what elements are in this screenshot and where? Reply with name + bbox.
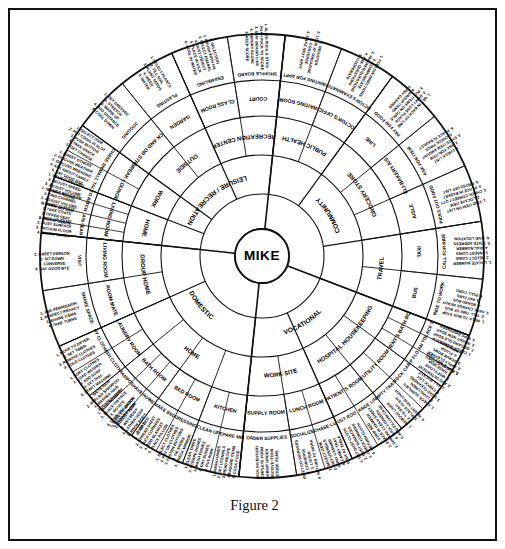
setting-label: HOME (142, 219, 152, 238)
activity-label: JOGGING (120, 121, 139, 140)
sector-divider (43, 278, 124, 291)
domain-label: LEISURE / RECREATION (186, 175, 247, 227)
task-step-group: 1. GREET CO-WORKERS2. CONVERSE3. LISTEN4… (293, 436, 323, 479)
subsetting-label: TAXI (416, 245, 422, 257)
task-step-group: 1. ALIGN PUCK & STICK2. PUSH PUCK TO SCO… (244, 24, 270, 71)
setting-label: RECREATION CENTER (211, 134, 276, 151)
setting-label: GROCERY STORE (346, 171, 378, 218)
subsetting-label: ROOM MATE (104, 285, 119, 318)
setting-label: WORK (150, 190, 164, 210)
curriculum-wheel: DOMESTICHOMEKITCHENPREPARE MEAL1. WASH H… (24, 24, 501, 479)
figure-page: DOMESTICHOMEKITCHENPREPARE MEAL1. WASH H… (0, 0, 505, 549)
setting-label: HOSPITAL HOUSEKEEPING (316, 304, 373, 364)
wheel-svg: DOMESTICHOMEKITCHENPREPARE MEAL1. WASH H… (24, 24, 501, 479)
subsetting-label: LINE (364, 135, 377, 148)
task-step-group: 1. REGISTER2. LOOK AT MAGAZINE3. CONVERS… (297, 29, 326, 76)
domain-label: VOCATIONAL (283, 307, 323, 335)
task-step-group: 1. FOLLOW DIRECTIONS2. COMMUNICATE3. ANS… (341, 45, 385, 98)
activity-label: CALL FOR RIDE (441, 233, 447, 269)
figure-caption: Figure 2 (10, 497, 499, 514)
subsetting-label: CLASS ROOM (200, 98, 235, 114)
task-step-group: 1. WASH HANDS2. GET UTENSILS3. READ RECI… (211, 442, 242, 479)
subsetting-label: BED ROOM (173, 384, 201, 403)
subsetting-label: COURT (248, 96, 268, 103)
task-step-group: 1. CHECK LIST2. ASK FOR ITEM3. STATE ITE… (415, 124, 467, 169)
task-step-group: 1. SELECT PLANTS2. TILL SOIL3. PLANT SEE… (133, 55, 173, 99)
task-step-group: 1. GET DRESSED2. STRETCH3. WARM UP4. JOG… (89, 91, 130, 132)
subsetting-label: SUPPLY ROOM (247, 409, 285, 417)
activity-label: VISIT (77, 255, 82, 267)
figure-frame: DOMESTICHOMEKITCHENPREPARE MEAL1. WASH H… (8, 8, 497, 541)
subsetting-label: AISLE (408, 203, 418, 220)
task-step-group: 1. WALK TO BUS STOP2. TELL TIME OF BUS3.… (439, 285, 492, 325)
setting-label: GROUP HOME (140, 254, 152, 295)
setting-label: HOME (183, 345, 201, 360)
task-step-group: 1. GREET PERSON2. SIT DOWN3. CONVERSE4. … (34, 251, 70, 272)
task-step: 6. GIVE LOCATION (454, 236, 489, 242)
subsetting-label: GARDEN (168, 114, 190, 131)
subsetting-label: BUS (411, 286, 419, 299)
sector-divider (401, 271, 483, 280)
task-step-group: 1. FIND ITEM ON LIST2. LOCATE ITEM3. CHE… (437, 178, 490, 215)
activity-label: SHUFFLE BOARD (237, 71, 277, 78)
subsetting-label: KITCHEN (213, 403, 237, 414)
task-step-group: 1. CHECK INVENTORY2. COMPLETE FORM3. SUB… (254, 444, 280, 479)
subsetting-label: UTILITY ROOM (361, 348, 391, 379)
subsetting-label: LUNCH ROOM (289, 398, 325, 414)
subsetting-label: BREAK LOUNGE (112, 161, 137, 201)
task-step-group: 1. LOCATE NUMBER2. SELECT COINS3. INSERT… (452, 236, 491, 267)
subsetting-label: WAITING ROOM (279, 97, 319, 112)
setting-label: OUTSIDE (175, 153, 199, 174)
subsetting-label: LIVING ROOM (102, 242, 109, 277)
domain-label: DOMESTIC (188, 289, 215, 320)
task-step: 4. SAY GOOD BYE (35, 265, 69, 271)
sector-divider (122, 83, 174, 147)
subsetting-label: LAUNDRY ROOM (115, 318, 142, 357)
activity-label: MAKE BED (153, 402, 177, 420)
hub-label: MIKE (244, 248, 280, 263)
task-step: 5. STORE ITEMS (274, 450, 280, 479)
activity-label: ENAMELING (196, 75, 224, 88)
activity-label: SOCIALIZE (290, 429, 315, 439)
task-step: 5. KEEP SCORE (244, 31, 250, 61)
subsetting-label: PATIENT'S ROOM (324, 375, 364, 403)
activity-label: SHARE SPACE (80, 291, 94, 324)
activity-label: PLANTING (155, 92, 178, 109)
hub: MIKE (235, 229, 289, 283)
activity-label: ORDER SUPPLIES (246, 435, 287, 442)
setting-label: PUBLIC HEALTH (281, 136, 327, 158)
setting-label: WORK SITE (264, 367, 298, 378)
